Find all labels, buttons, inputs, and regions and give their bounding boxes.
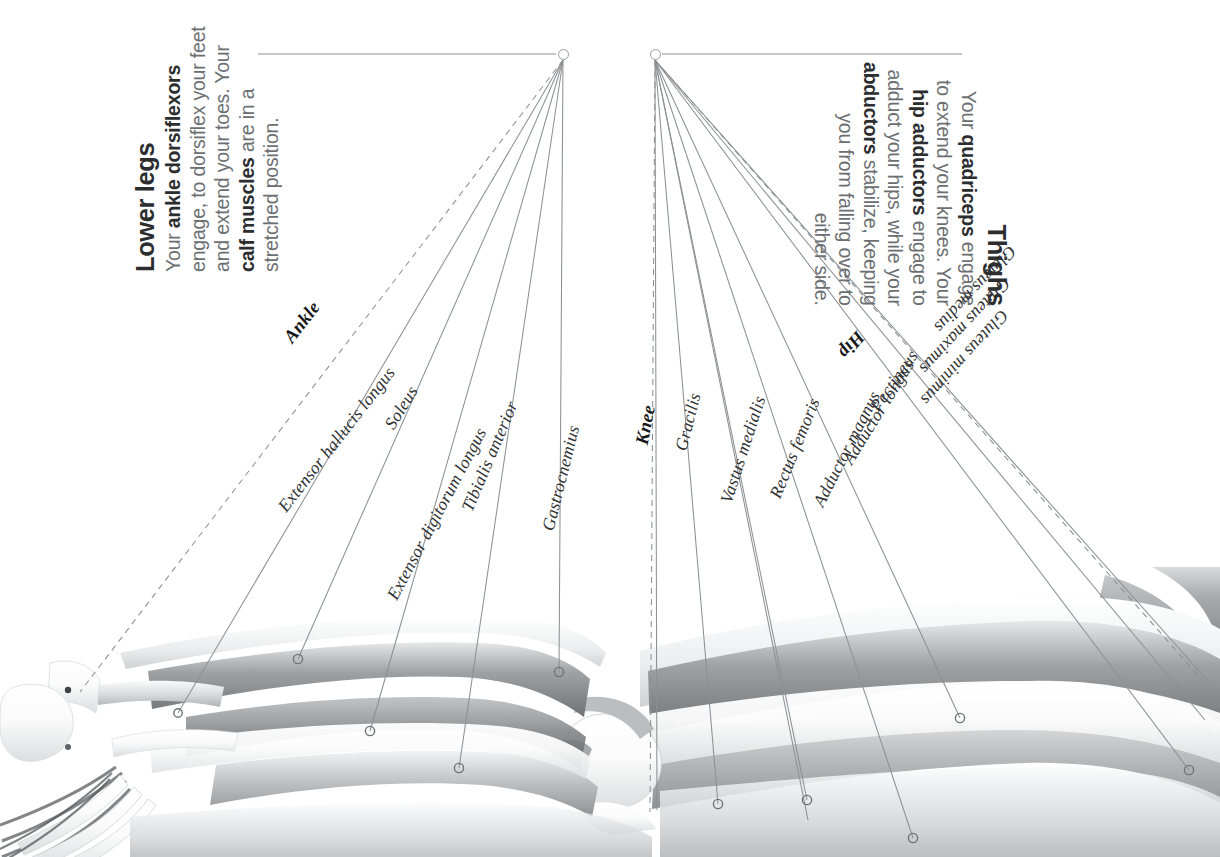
lower-legs-body-line-1: Your ankle dorsiflexors xyxy=(161,27,186,273)
lower-legs-body-line-4: calf muscles are in a xyxy=(235,27,260,273)
leader-gracilis xyxy=(655,60,657,810)
thighs-body-line-1: Your quadriceps engage xyxy=(957,62,982,306)
anchor-dot-right xyxy=(650,49,661,60)
thighs-body-line-7: either side. xyxy=(810,62,835,306)
thighs-body-line-5: abductors stabilize, keeping xyxy=(859,62,884,306)
anchor-dot-left xyxy=(558,49,569,60)
lower-legs-body-line-5: stretched position. xyxy=(259,27,284,273)
lower-legs-heading: Lower legs xyxy=(130,27,161,273)
lower-legs-body-line-3: and extend your toes. Your xyxy=(210,27,235,273)
thighs-body-line-2: to extend your knees. Your xyxy=(932,62,957,306)
lower-legs-body-line-2: engage, to dorsiflex your feet xyxy=(186,27,211,273)
figure-canvas: Lower legs Your ankle dorsiflexors engag… xyxy=(0,0,1220,857)
thighs-body-line-4: adduct your hips, while your xyxy=(883,62,908,306)
thighs-body-line-3: hip adductors engage to xyxy=(908,62,933,306)
endpoint-ankle xyxy=(65,687,71,693)
leader-soleus xyxy=(298,60,563,659)
thighs-body-line-6: you from falling over to xyxy=(834,62,859,306)
leader-gastrocnemius xyxy=(559,60,563,672)
lower-legs-panel: Lower legs Your ankle dorsiflexors engag… xyxy=(130,27,284,273)
